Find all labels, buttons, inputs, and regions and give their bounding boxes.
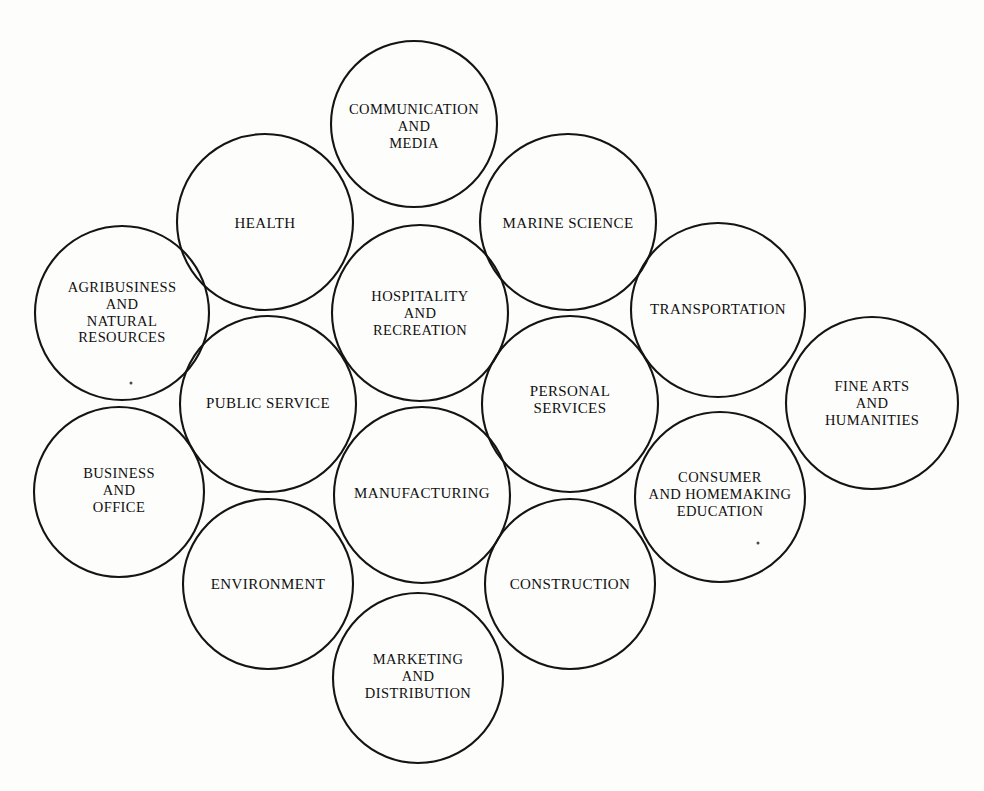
cluster-circle-manufacturing[interactable]: [334, 407, 510, 583]
cluster-circle-marine-science[interactable]: [480, 134, 656, 310]
circle-outlines-layer: [0, 0, 984, 791]
cluster-circle-transportation[interactable]: [631, 223, 805, 397]
cluster-circle-construction[interactable]: [485, 499, 655, 669]
cluster-circle-hospitality-and-recreation[interactable]: [332, 225, 508, 401]
page-speck-1: [757, 542, 760, 545]
cluster-circle-public-service[interactable]: [180, 316, 356, 492]
cluster-circle-communication-and-media[interactable]: [331, 41, 497, 207]
page-speck-0: [130, 382, 133, 385]
cluster-circle-consumer-and-homemaking-education[interactable]: [635, 412, 805, 582]
cluster-circle-business-and-office[interactable]: [34, 407, 204, 577]
cluster-circle-marketing-and-distribution[interactable]: [333, 593, 503, 763]
cluster-circle-personal-services[interactable]: [482, 316, 658, 492]
cluster-circle-fine-arts-and-humanities[interactable]: [786, 317, 958, 489]
cluster-diagram: COMMUNICATION AND MEDIAHEALTHMARINE SCIE…: [0, 0, 984, 791]
cluster-circle-environment[interactable]: [183, 499, 353, 669]
cluster-circle-agribusiness-and-natural-resources[interactable]: [35, 226, 209, 400]
